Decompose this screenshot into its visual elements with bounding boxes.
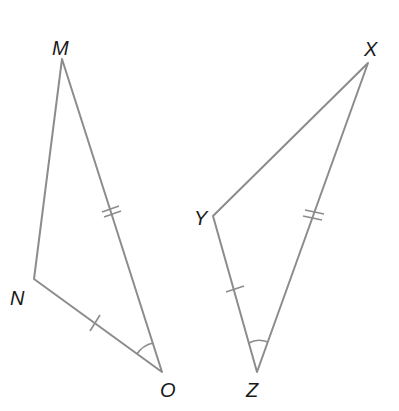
vertex-label-z: Z (245, 379, 259, 401)
congruent-triangles-figure: M N O X Y Z (0, 0, 399, 411)
triangle-xyz-outline (213, 63, 368, 372)
vertex-label-y: Y (194, 207, 209, 229)
single-tick-mark-no (90, 315, 100, 331)
vertex-label-x: X (363, 38, 378, 60)
vertex-label-n: N (10, 287, 25, 309)
triangle-xyz: X Y Z (194, 38, 378, 401)
vertex-label-o: O (160, 379, 176, 401)
triangle-mno-outline (34, 59, 162, 372)
vertex-label-m: M (52, 37, 69, 59)
angle-arc-z (249, 340, 268, 343)
triangle-mno: M N O (10, 37, 176, 401)
angle-arc-o (137, 343, 153, 354)
